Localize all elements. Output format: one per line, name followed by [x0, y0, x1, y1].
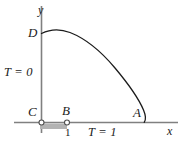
shaded-segment-cb — [40, 124, 67, 130]
free-boundary-curve — [42, 30, 146, 122]
math-figure: y x D C B A 1 T = 0 T = 1 — [0, 0, 181, 145]
point-marker-c — [39, 120, 44, 125]
point-marker-b — [65, 120, 70, 125]
point-label-c: C — [28, 105, 37, 118]
x-axis-label: x — [167, 125, 172, 137]
y-axis-label: y — [38, 4, 43, 16]
boundary-condition-left: T = 0 — [4, 66, 33, 79]
point-label-d: D — [28, 26, 37, 39]
point-label-b: B — [62, 104, 70, 117]
x-tick-label-1: 1 — [65, 127, 71, 138]
boundary-condition-bottom: T = 1 — [88, 126, 117, 139]
point-label-a: A — [133, 106, 141, 119]
